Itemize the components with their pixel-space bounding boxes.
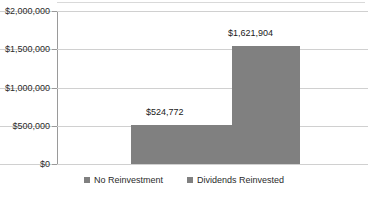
legend-item-dividends-reinvested[interactable]: Dividends Reinvested [187, 175, 284, 185]
bar-dividends-reinvested[interactable] [232, 46, 300, 164]
chart-legend: No Reinvestment Dividends Reinvested [0, 175, 368, 185]
y-axis-label-0: $0 [0, 160, 50, 169]
y-axis-label-500000: $500,000 [0, 122, 50, 131]
y-axis-label-1000000: $1,000,000 [0, 84, 50, 93]
legend-swatch-icon [84, 177, 90, 183]
legend-label-dividends-reinvested: Dividends Reinvested [197, 175, 284, 185]
chart-top-border [57, 2, 365, 3]
bar-no-reinvestment[interactable] [131, 125, 232, 164]
legend-label-no-reinvestment: No Reinvestment [94, 175, 163, 185]
bar-chart: $2,000,000 $1,500,000 $1,000,000 $500,00… [0, 0, 368, 203]
legend-item-no-reinvestment[interactable]: No Reinvestment [84, 175, 163, 185]
data-label-no-reinvestment: $524,772 [142, 105, 188, 119]
plot-area [57, 11, 365, 164]
legend-swatch-icon [187, 177, 193, 183]
y-axis-label-2000000: $2,000,000 [0, 7, 50, 16]
y-tick-0 [52, 164, 57, 165]
data-label-dividends-reinvested: $1,621,904 [224, 26, 277, 40]
y-axis-label-1500000: $1,500,000 [0, 45, 50, 54]
